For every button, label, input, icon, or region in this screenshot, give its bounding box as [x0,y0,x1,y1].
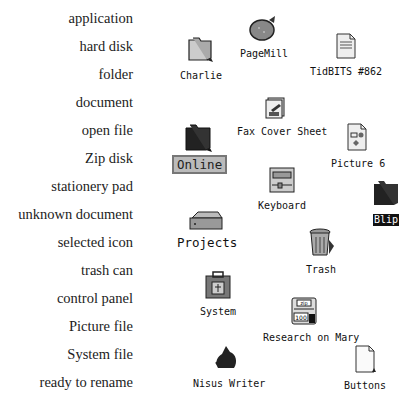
application-icon [247,14,281,42]
icon-label: Picture 6 [330,158,386,170]
icon-label: Fax Cover Sheet [236,126,328,138]
desktop-icon-research-on-mary[interactable]: zip 100 Research on Mary [262,296,346,345]
trash-can-icon [307,226,335,258]
icon-label: Charlie [179,70,223,82]
unknown-document-icon [353,344,377,374]
icon-label: Buttons [343,380,387,392]
control-panel-icon [267,166,297,194]
icon-label: Projects [176,235,238,250]
stationery-pad-icon [263,96,289,120]
rename-field[interactable]: Online [172,155,227,174]
legend-label: unknown document [18,206,133,223]
cropped-text-line [0,0,160,4]
desktop-icon-trash[interactable]: Trash [298,226,344,277]
desktop-icon-blip[interactable]: Blip [366,178,406,227]
legend-label: application [69,10,133,27]
desktop-icon-picture-6[interactable]: Picture 6 [330,122,384,171]
desktop-icon-nisus-writer[interactable]: Nisus Writer [192,342,260,391]
icon-label: Nisus Writer [192,378,266,390]
desktop-icon-keyboard[interactable]: Keyboard [252,166,312,213]
desktop-icon-fax-cover-sheet[interactable]: Fax Cover Sheet [236,96,316,139]
folder-icon [185,34,217,64]
folder-icon [182,122,216,154]
icon-label: Blip [373,214,399,226]
icon-label: Keyboard [257,200,307,212]
legend-label: control panel [57,290,133,307]
legend-label: System file [67,346,133,363]
legend-label: folder [98,66,133,83]
legend-label: open file [82,122,133,139]
desktop-icon-projects[interactable]: Projects [176,210,236,251]
legend-label: Picture file [69,318,133,335]
legend-label: hard disk [79,38,133,55]
icon-label: PageMill [239,48,289,60]
legend-label: document [76,94,133,111]
desktop-icon-tidbits[interactable]: TidBITS #862 [306,32,386,79]
desktop-icon-charlie[interactable]: Charlie [176,34,226,83]
picture-file-icon [345,122,369,152]
svg-text:100: 100 [295,314,307,321]
legend-label: ready to rename [40,374,133,391]
legend-label: selected icon [58,234,133,251]
icon-label: Trash [305,264,337,276]
system-file-icon [202,270,234,300]
folder-icon [370,178,402,208]
legend-label: stationery pad [51,178,133,195]
desktop-icon-online[interactable]: Online [172,122,226,174]
zip-disk-icon: zip 100 [289,296,319,326]
document-icon [334,32,358,60]
legend-label: trash can [81,262,133,279]
desktop-icon-pagemill[interactable]: PageMill [236,14,292,61]
desktop-icon-system[interactable]: System [188,270,248,319]
icon-label: TidBITS #862 [309,66,383,78]
icon-label: System [199,306,237,318]
application-icon [210,342,242,372]
desktop-icon-buttons[interactable]: Buttons [342,344,388,393]
icon-label: Research on Mary [262,332,360,344]
svg-text:zip: zip [300,300,307,307]
legend-label: Zip disk [85,150,133,167]
hard-disk-icon [188,210,224,232]
